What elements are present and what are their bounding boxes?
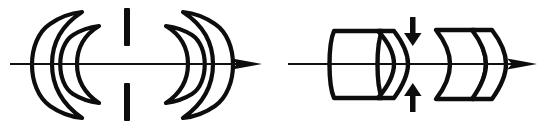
optical-diagram-figure: Optical lens system schematic diagrams [0, 0, 546, 129]
aperture-stop-upper-bar [124, 8, 130, 46]
optical-diagram-canvas [0, 0, 546, 129]
aperture-stop-lower-bar [124, 83, 130, 121]
